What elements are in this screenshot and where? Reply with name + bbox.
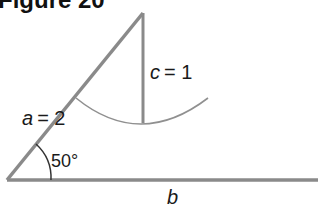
triangle-diagram: a= 2 c= 1 50° b (0, 0, 318, 206)
side-c-label: c= 1 (150, 61, 192, 83)
side-a-label: a= 2 (22, 107, 65, 129)
side-b-label: b (167, 186, 178, 206)
angle-label: 50° (51, 151, 78, 171)
angle-arc (36, 144, 51, 180)
